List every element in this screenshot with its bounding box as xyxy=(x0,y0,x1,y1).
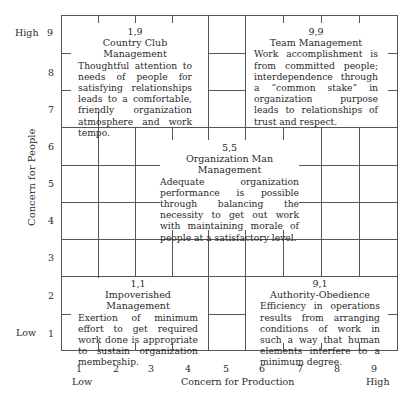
y-tick-9: 9 xyxy=(47,27,53,38)
grid-hline xyxy=(208,314,245,315)
grid-hline xyxy=(299,202,397,203)
grid-hline xyxy=(208,90,245,91)
y-tick-2: 2 xyxy=(48,290,54,301)
x-tick-7: 7 xyxy=(297,363,303,374)
box-description: Thoughtful attention to needs of people … xyxy=(78,60,192,138)
x-axis-title: Concern for Production xyxy=(181,376,294,387)
box-organization-man: 5,5 Organization Man Management Adequate… xyxy=(160,140,299,230)
x-tick-3: 3 xyxy=(148,363,154,374)
box-coord: 1,9 xyxy=(78,26,192,37)
tick-mark xyxy=(172,16,173,23)
box-coord: 5,5 xyxy=(160,142,299,153)
tick-mark xyxy=(98,16,99,23)
x-tick-6: 6 xyxy=(259,363,265,374)
managerial-grid: 1,9 Country Club Management Thoughtful a… xyxy=(61,15,398,351)
box-title: Team Management xyxy=(254,37,378,48)
y-tick-4: 4 xyxy=(48,215,54,226)
grid-hline xyxy=(62,165,160,166)
box-description: Adequate organization performance is pos… xyxy=(160,176,299,243)
tick-mark xyxy=(359,16,360,23)
tick-mark xyxy=(388,314,397,315)
box-impoverished: 1,1 Impoverished Management Exertion of … xyxy=(78,278,198,344)
grid-hline xyxy=(62,276,397,277)
x-tick-2: 2 xyxy=(113,363,119,374)
box-coord: 9,9 xyxy=(254,26,378,37)
tick-mark xyxy=(388,90,397,91)
grid-vline xyxy=(283,127,284,141)
y-tick-7: 7 xyxy=(48,104,54,115)
box-title: Authority-Obedience xyxy=(260,289,380,300)
tick-mark xyxy=(388,53,397,54)
x-low-label: Low xyxy=(72,376,92,387)
tick-mark xyxy=(135,343,136,350)
y-tick-6: 6 xyxy=(48,141,54,152)
tick-mark xyxy=(359,343,360,350)
box-coord: 1,1 xyxy=(78,278,198,289)
x-tick-8: 8 xyxy=(334,363,340,374)
box-coord: 9,1 xyxy=(260,278,380,289)
tick-mark xyxy=(62,53,71,54)
y-tick-5: 5 xyxy=(48,178,54,189)
tick-mark xyxy=(321,16,322,23)
grid-hline xyxy=(208,53,245,54)
y-tick-3: 3 xyxy=(48,252,54,263)
tick-mark xyxy=(283,343,284,350)
box-authority-obedience: 9,1 Authority-Obedience Efficiency in op… xyxy=(260,278,380,344)
grid-hline xyxy=(62,202,160,203)
box-description: Efficiency in operations results from ar… xyxy=(260,300,380,367)
tick-mark xyxy=(135,16,136,23)
x-high-label: High xyxy=(366,376,390,387)
tick-mark xyxy=(172,343,173,350)
box-title: Organization Man Management xyxy=(160,153,299,175)
x-tick-5: 5 xyxy=(223,363,229,374)
x-tick-9: 9 xyxy=(371,363,377,374)
y-tick-1: 1 xyxy=(48,328,54,339)
y-low-label: Low xyxy=(16,327,36,338)
grid-hline xyxy=(299,165,397,166)
tick-mark xyxy=(62,90,71,91)
box-title: Country Club Management xyxy=(78,37,192,59)
box-team-management: 9,9 Team Management Work accomplishment … xyxy=(254,26,378,112)
box-title: Impoverished Management xyxy=(78,289,198,311)
tick-mark xyxy=(321,343,322,350)
x-tick-1: 1 xyxy=(76,363,82,374)
tick-mark xyxy=(283,16,284,23)
y-axis-title: Concern for People xyxy=(26,129,37,226)
x-tick-4: 4 xyxy=(185,363,191,374)
box-description: Work accomplishment is from committed pe… xyxy=(254,48,378,126)
box-country-club: 1,9 Country Club Management Thoughtful a… xyxy=(78,26,192,112)
tick-mark xyxy=(62,314,71,315)
tick-mark xyxy=(98,343,99,350)
y-high-label: High xyxy=(15,27,39,38)
y-tick-8: 8 xyxy=(48,67,54,78)
box-description: Exertion of minimum effort to get requir… xyxy=(78,312,198,368)
